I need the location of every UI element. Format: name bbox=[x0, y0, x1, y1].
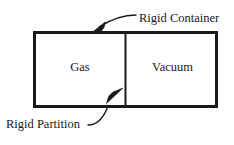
rigid-container-arrowhead-icon bbox=[92, 22, 106, 33]
rigid-partition-leader-line bbox=[88, 106, 108, 125]
right-chamber-label: Vacuum bbox=[146, 61, 199, 74]
left-chamber-label: Gas bbox=[60, 61, 100, 74]
rigid-partition-label: Rigid Partition bbox=[6, 118, 80, 131]
rigid-container-label: Rigid Container bbox=[139, 12, 219, 25]
thermodynamics-diagram: Gas Vacuum Rigid Container Rigid Partiti… bbox=[0, 0, 234, 145]
